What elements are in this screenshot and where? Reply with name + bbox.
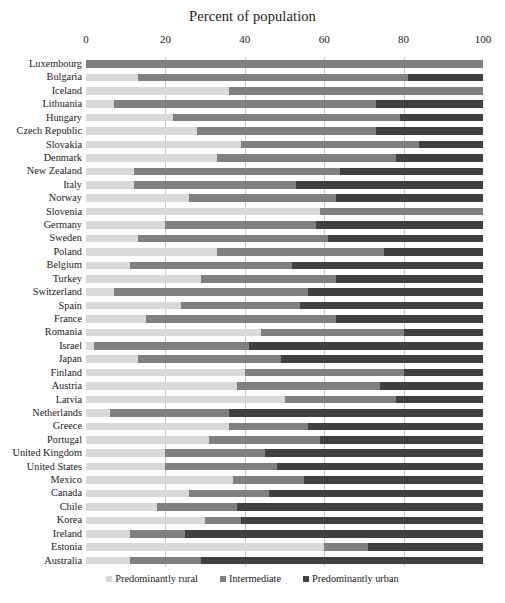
bar-segment-rural[interactable] <box>86 557 130 565</box>
bar-segment-urban[interactable] <box>296 181 483 189</box>
bar-segment-intermediate[interactable] <box>138 235 329 243</box>
stacked-bar[interactable] <box>86 194 483 202</box>
stacked-bar[interactable] <box>86 409 483 417</box>
stacked-bar[interactable] <box>86 396 483 404</box>
bar-segment-rural[interactable] <box>86 100 114 108</box>
bar-segment-intermediate[interactable] <box>165 449 264 457</box>
bar-segment-urban[interactable] <box>249 342 483 350</box>
bar-segment-urban[interactable] <box>241 517 483 525</box>
bar-segment-intermediate[interactable] <box>241 141 420 149</box>
bar-segment-intermediate[interactable] <box>181 302 300 310</box>
bar-segment-intermediate[interactable] <box>320 208 483 216</box>
stacked-bar[interactable] <box>86 449 483 457</box>
bar-segment-intermediate[interactable] <box>134 168 340 176</box>
stacked-bar[interactable] <box>86 262 483 270</box>
bar-segment-intermediate[interactable] <box>233 476 304 484</box>
bar-segment-intermediate[interactable] <box>86 60 483 68</box>
bar-segment-intermediate[interactable] <box>157 503 236 511</box>
stacked-bar[interactable] <box>86 114 483 122</box>
stacked-bar[interactable] <box>86 275 483 283</box>
stacked-bar[interactable] <box>86 436 483 444</box>
bar-segment-intermediate[interactable] <box>138 355 281 363</box>
bar-segment-intermediate[interactable] <box>229 87 483 95</box>
stacked-bar[interactable] <box>86 141 483 149</box>
bar-segment-urban[interactable] <box>336 275 483 283</box>
stacked-bar[interactable] <box>86 221 483 229</box>
bar-segment-intermediate[interactable] <box>205 517 241 525</box>
bar-segment-intermediate[interactable] <box>197 127 376 135</box>
bar-segment-urban[interactable] <box>404 369 483 377</box>
legend-item[interactable]: Predominantly urban <box>303 573 399 584</box>
stacked-bar[interactable] <box>86 329 483 337</box>
bar-segment-intermediate[interactable] <box>130 557 201 565</box>
bar-segment-rural[interactable] <box>86 449 165 457</box>
bar-segment-rural[interactable] <box>86 436 209 444</box>
bar-segment-intermediate[interactable] <box>261 329 404 337</box>
stacked-bar[interactable] <box>86 315 483 323</box>
bar-segment-urban[interactable] <box>269 490 483 498</box>
bar-segment-rural[interactable] <box>86 503 157 511</box>
bar-segment-urban[interactable] <box>265 449 483 457</box>
bar-segment-rural[interactable] <box>86 396 285 404</box>
stacked-bar[interactable] <box>86 530 483 538</box>
bar-segment-intermediate[interactable] <box>110 409 229 417</box>
bar-segment-rural[interactable] <box>86 235 138 243</box>
bar-segment-rural[interactable] <box>86 355 138 363</box>
bar-segment-intermediate[interactable] <box>130 262 293 270</box>
bar-segment-intermediate[interactable] <box>245 369 404 377</box>
bar-segment-intermediate[interactable] <box>114 288 309 296</box>
bar-segment-intermediate[interactable] <box>146 315 337 323</box>
stacked-bar[interactable] <box>86 248 483 256</box>
bar-segment-urban[interactable] <box>404 329 483 337</box>
bar-segment-rural[interactable] <box>86 517 205 525</box>
legend-item[interactable]: Predominantly rural <box>106 573 198 584</box>
bar-segment-urban[interactable] <box>292 262 483 270</box>
bar-segment-rural[interactable] <box>86 114 173 122</box>
bar-segment-intermediate[interactable] <box>165 221 316 229</box>
bar-segment-urban[interactable] <box>308 423 483 431</box>
bar-segment-rural[interactable] <box>86 423 229 431</box>
stacked-bar[interactable] <box>86 74 483 82</box>
bar-segment-urban[interactable] <box>304 476 483 484</box>
bar-segment-urban[interactable] <box>408 74 483 82</box>
bar-segment-urban[interactable] <box>340 168 483 176</box>
bar-segment-rural[interactable] <box>86 154 217 162</box>
bar-segment-urban[interactable] <box>336 315 483 323</box>
stacked-bar[interactable] <box>86 342 483 350</box>
bar-segment-intermediate[interactable] <box>189 490 268 498</box>
bar-segment-urban[interactable] <box>384 248 483 256</box>
bar-segment-urban[interactable] <box>320 436 483 444</box>
bar-segment-rural[interactable] <box>86 168 134 176</box>
bar-segment-rural[interactable] <box>86 315 146 323</box>
bar-segment-rural[interactable] <box>86 329 261 337</box>
bar-segment-rural[interactable] <box>86 409 110 417</box>
bar-segment-intermediate[interactable] <box>237 382 380 390</box>
legend-item[interactable]: Intermediate <box>220 573 281 584</box>
bar-segment-urban[interactable] <box>376 127 483 135</box>
stacked-bar[interactable] <box>86 60 483 68</box>
bar-segment-rural[interactable] <box>86 127 197 135</box>
bar-segment-rural[interactable] <box>86 476 233 484</box>
stacked-bar[interactable] <box>86 517 483 525</box>
bar-segment-rural[interactable] <box>86 194 189 202</box>
bar-segment-intermediate[interactable] <box>165 463 276 471</box>
bar-segment-rural[interactable] <box>86 342 94 350</box>
bar-segment-rural[interactable] <box>86 74 138 82</box>
bar-segment-urban[interactable] <box>185 530 483 538</box>
stacked-bar[interactable] <box>86 181 483 189</box>
bar-segment-rural[interactable] <box>86 288 114 296</box>
bar-segment-urban[interactable] <box>336 194 483 202</box>
stacked-bar[interactable] <box>86 543 483 551</box>
bar-segment-urban[interactable] <box>396 154 483 162</box>
stacked-bar[interactable] <box>86 423 483 431</box>
stacked-bar[interactable] <box>86 355 483 363</box>
bar-segment-rural[interactable] <box>86 543 324 551</box>
bar-segment-rural[interactable] <box>86 382 237 390</box>
bar-segment-urban[interactable] <box>308 288 483 296</box>
bar-segment-intermediate[interactable] <box>130 530 186 538</box>
bar-segment-rural[interactable] <box>86 275 201 283</box>
stacked-bar[interactable] <box>86 476 483 484</box>
bar-segment-rural[interactable] <box>86 463 165 471</box>
bar-segment-rural[interactable] <box>86 141 241 149</box>
stacked-bar[interactable] <box>86 168 483 176</box>
